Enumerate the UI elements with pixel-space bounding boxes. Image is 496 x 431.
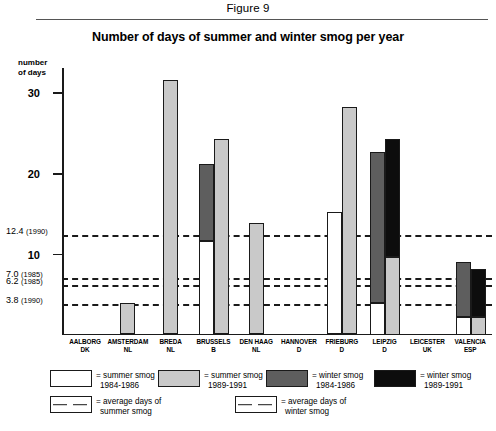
legend-item: = winter smog1984-1986 (266, 370, 374, 390)
x-axis-label-country: NL (149, 346, 192, 354)
bar-segment-summer (471, 317, 486, 333)
legend-swatch (266, 370, 308, 387)
y-tick: 20 (53, 173, 62, 174)
header-divider (36, 19, 488, 20)
legend-label: = summer smog1989-1991 (204, 370, 263, 390)
bar-segment-summer (342, 107, 357, 334)
x-axis-label-city: DEN HAAG (235, 338, 278, 346)
y-tick-label: 30 (28, 87, 40, 99)
legend: = summer smog1984-1986= summer smog1989-… (50, 370, 492, 422)
legend-label: = summer smog1984-1986 (96, 370, 155, 390)
legend-item: = average days ofsummer smog (50, 396, 235, 416)
x-axis-label-country: D (320, 346, 363, 354)
legend-label: = winter smog1984-1986 (312, 370, 363, 390)
bar-segment-summer (456, 317, 471, 333)
legend-swatch (235, 396, 277, 413)
bar-segment-winter (471, 269, 486, 318)
bar-segment-summer (370, 303, 385, 334)
legend-label: = average days ofsummer smog (96, 396, 161, 416)
legend-swatch (158, 370, 200, 387)
bar (163, 80, 178, 333)
x-axis-label-city: VALENCIA (449, 338, 492, 346)
legend-swatch (50, 370, 92, 387)
x-axis-label-city: FRIEBURG (320, 338, 363, 346)
legend-row-swatches: = summer smog1984-1986= summer smog1989-… (50, 370, 492, 390)
x-axis-label-city: AALBORG (64, 338, 107, 346)
average-line-label: 12.4 (1990) (6, 226, 48, 237)
legend-label-line2: 1989-1991 (208, 381, 263, 391)
x-axis-label-city: AMSTERDAM (106, 338, 149, 346)
x-axis-label: BREDANL (149, 338, 192, 354)
x-axis-label-country: B (192, 346, 235, 354)
bar-group (321, 68, 364, 334)
bar-group (106, 68, 149, 334)
bar-group (278, 68, 321, 334)
x-axis-label-city: HANNOVER (278, 338, 321, 346)
x-axis-labels: AALBORGDKAMSTERDAMNLBREDANLBRUSSELSBDEN … (64, 338, 492, 354)
bar-segment-summer (199, 241, 214, 334)
x-axis-label-city: LEIPZIG (363, 338, 406, 346)
legend-item: = summer smog1989-1991 (158, 370, 266, 390)
x-axis-label: LEICESTERUK (406, 338, 449, 354)
average-line-year: (1990) (21, 296, 43, 305)
bar (456, 262, 471, 333)
plot-area: 102030 12.4 (1990)7.0 (1985)6.2 (1985)3.… (62, 68, 492, 335)
x-axis-label-country: UK (406, 346, 449, 354)
y-tick-label: 20 (28, 168, 40, 180)
average-line-label: 6.2 (1985) (6, 276, 43, 287)
legend-row-averages: = average days ofsummer smog= average da… (50, 396, 492, 416)
bar-segment-summer (385, 257, 400, 334)
average-line-value: 12.4 (6, 226, 24, 236)
legend-label-line2: 1984-1986 (100, 381, 155, 391)
bar (471, 269, 486, 334)
average-line-year: (1985) (21, 277, 43, 286)
legend-swatch (50, 396, 92, 413)
x-axis-label-city: BREDA (149, 338, 192, 346)
x-axis-label-country: D (278, 346, 321, 354)
bar-segment-summer (249, 223, 264, 334)
y-tick-label: 10 (28, 249, 40, 261)
bar-segment-summer (120, 303, 135, 334)
bar-segment-winter (370, 152, 385, 303)
bar (370, 152, 385, 334)
figure-label: Figure 9 (0, 2, 496, 14)
bar-groups (64, 68, 492, 334)
bar-group (406, 68, 449, 334)
bar-group (149, 68, 192, 334)
x-axis-label: AALBORGDK (64, 338, 107, 354)
bar-group (192, 68, 235, 334)
figure-container: Figure 9 Number of days of summer and wi… (0, 0, 496, 431)
x-axis-label: AMSTERDAMNL (106, 338, 149, 354)
x-axis (62, 334, 492, 335)
x-axis-label: FRIEBURGD (320, 338, 363, 354)
bar-segment-summer (163, 80, 178, 333)
legend-label-line1: = average days of (96, 397, 161, 406)
legend-item: = average days ofwinter smog (235, 396, 420, 416)
x-axis-label-country: D (363, 346, 406, 354)
legend-item: = summer smog1984-1986 (50, 370, 158, 390)
x-axis-label-city: BRUSSELS (192, 338, 235, 346)
chart-title: Number of days of summer and winter smog… (0, 30, 496, 44)
legend-item: = winter smog1989-1991 (374, 370, 482, 390)
legend-label: = average days ofwinter smog (281, 396, 346, 416)
x-axis-label-country: DK (64, 346, 107, 354)
x-axis-label-country: NL (106, 346, 149, 354)
x-axis-label-country: ESP (449, 346, 492, 354)
bar (120, 303, 135, 334)
y-tick: 30 (53, 92, 62, 93)
bar-group (64, 68, 107, 334)
legend-label-line2: summer smog (100, 407, 161, 417)
legend-label-line1: = winter smog (420, 371, 471, 380)
bar (214, 139, 229, 333)
bar (327, 212, 342, 333)
x-axis-label: HANNOVERD (278, 338, 321, 354)
average-line-value: 6.2 (6, 276, 19, 286)
y-tick: 10 (53, 254, 62, 255)
bar (385, 139, 400, 333)
bar-group (364, 68, 407, 334)
x-axis-label: BRUSSELSB (192, 338, 235, 354)
x-axis-label-city: LEICESTER (406, 338, 449, 346)
legend-label-line2: winter smog (285, 407, 346, 417)
bar-segment-winter (199, 164, 214, 241)
legend-label-line1: = winter smog (312, 371, 363, 380)
